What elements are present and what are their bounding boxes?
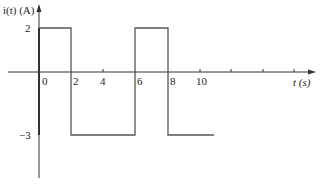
x-tick-10: 10 bbox=[196, 75, 208, 87]
y-tick-2: 2 bbox=[25, 22, 31, 34]
current-waveform bbox=[39, 28, 214, 135]
x-tick-0: 0 bbox=[42, 75, 48, 87]
x-tick-4: 4 bbox=[100, 75, 106, 87]
y-tick-neg3: −3 bbox=[19, 129, 31, 141]
y-axis-arrow-icon bbox=[37, 4, 42, 12]
current-waveform-chart: i(t) (A) t (s) 2 −3 0 2 4 6 8 10 bbox=[0, 0, 321, 185]
x-axis-label: t (s) bbox=[293, 76, 311, 89]
x-tick-2: 2 bbox=[73, 75, 79, 87]
x-tick-6: 6 bbox=[137, 75, 143, 87]
y-axis-label: i(t) (A) bbox=[3, 4, 35, 17]
x-axis-arrow-icon bbox=[308, 70, 316, 75]
x-tick-8: 8 bbox=[170, 75, 176, 87]
